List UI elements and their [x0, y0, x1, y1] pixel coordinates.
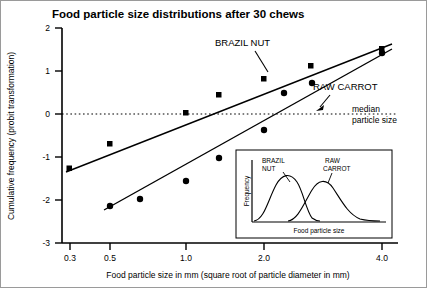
chart-title: Food particle size distributions after 3…	[52, 8, 304, 20]
x-tick-label-1: 0.5	[104, 253, 116, 263]
y-tick-label-3: 0	[45, 109, 50, 119]
annotation-median-line1: median	[352, 104, 380, 114]
x-tick-label-4: 4.0	[376, 253, 388, 263]
chart-figure: Food particle size distributions after 3…	[0, 0, 427, 288]
inset-border	[236, 150, 392, 238]
inset-x-axis-label: Food particle size	[294, 227, 345, 235]
inset-y-axis-label: Frequency	[243, 175, 251, 206]
chart-svg: Food particle size distributions after 3…	[0, 0, 427, 288]
y-tick-label-2: -1	[42, 152, 50, 162]
annotation-brazil-nut: BRAZIL NUT	[215, 37, 270, 48]
y-tick-label-0: -3	[42, 238, 50, 248]
y-tick-label-4: 1	[45, 66, 50, 76]
y-axis-label: Cumulative frequency (probit transformat…	[6, 52, 16, 220]
annotation-median-line2: particle size	[352, 115, 397, 125]
inset-label-raw-carrot-line1: RAW	[325, 157, 341, 164]
inset-chart: BRAZIL NUT RAW CARROT Frequency Food par…	[236, 150, 392, 238]
x-axis-label: Food particle size in mm (square root of…	[106, 270, 349, 280]
x-tick-label-0: 0.3	[64, 253, 76, 263]
annotation-raw-carrot: RAW CARROT	[313, 81, 378, 92]
x-tick-label-2: 1.0	[180, 253, 192, 263]
figure-border	[1, 1, 427, 288]
inset-label-brazil-nut-line2: NUT	[262, 165, 275, 172]
y-tick-label-1: -2	[42, 195, 50, 205]
inset-label-brazil-nut-line1: BRAZIL	[262, 157, 285, 164]
y-tick-label-5: 2	[45, 23, 50, 33]
x-tick-label-3: 2.0	[258, 253, 270, 263]
inset-label-raw-carrot-line2: CARROT	[323, 165, 350, 172]
